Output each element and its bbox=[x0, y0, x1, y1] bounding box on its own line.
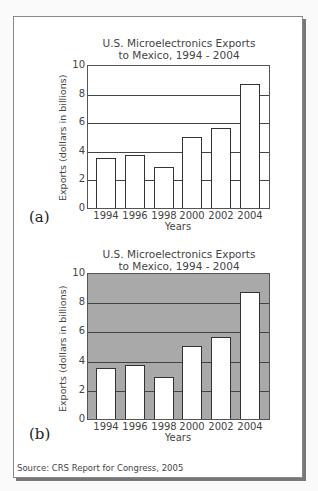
source-note: Source: CRS Report for Congress, 2005 bbox=[17, 463, 183, 473]
x-tick-label: 1996 bbox=[121, 421, 149, 432]
y-axis-label: Exports (dollars in billions) bbox=[57, 75, 68, 201]
x-tick-label: 2004 bbox=[236, 421, 264, 432]
x-tick-label: 2002 bbox=[207, 210, 235, 221]
chart-title: to Mexico, 1994 - 2004 bbox=[71, 260, 287, 272]
x-tick-label: 1998 bbox=[150, 210, 178, 221]
x-tick-label: 1998 bbox=[150, 421, 178, 432]
y-axis-label: Exports (dollars in billions) bbox=[57, 286, 68, 412]
x-tick-label: 1996 bbox=[121, 210, 149, 221]
bar-2000 bbox=[182, 346, 202, 419]
bar-1998 bbox=[154, 377, 174, 419]
figure-card: U.S. Microelectronics Exportsto Mexico, … bbox=[13, 16, 303, 478]
x-tick-label: 2002 bbox=[207, 421, 235, 432]
panel-label: (a) bbox=[29, 208, 50, 226]
x-tick-label: 2000 bbox=[178, 421, 206, 432]
bar-2004 bbox=[240, 292, 260, 419]
chart-title: to Mexico, 1994 - 2004 bbox=[71, 49, 287, 61]
x-tick-label: 2004 bbox=[236, 210, 264, 221]
panel-label: (b) bbox=[29, 425, 50, 443]
bar-2000 bbox=[182, 137, 202, 209]
y-tick-label: 10 bbox=[71, 60, 85, 70]
bar-2004 bbox=[240, 84, 260, 208]
y-tick-label: 0 bbox=[71, 414, 85, 424]
bar-1996 bbox=[125, 155, 145, 208]
y-tick-label: 10 bbox=[71, 268, 85, 278]
bar-1994 bbox=[96, 158, 116, 208]
y-tick-label: 8 bbox=[71, 297, 85, 307]
x-tick-label: 1994 bbox=[92, 421, 120, 432]
bar-1994 bbox=[96, 368, 116, 419]
y-tick-label: 2 bbox=[71, 385, 85, 395]
plot-area bbox=[87, 65, 270, 209]
chart-title: U.S. Microelectronics Exports bbox=[71, 37, 287, 49]
y-tick-label: 6 bbox=[71, 326, 85, 336]
x-axis-label: Years bbox=[148, 432, 208, 443]
bar-1998 bbox=[154, 167, 174, 208]
plot-area bbox=[87, 273, 270, 420]
bar-2002 bbox=[211, 128, 231, 208]
y-tick-label: 8 bbox=[71, 89, 85, 99]
y-tick-label: 2 bbox=[71, 174, 85, 184]
y-tick-label: 6 bbox=[71, 117, 85, 127]
bar-2002 bbox=[211, 337, 231, 419]
y-tick-label: 0 bbox=[71, 203, 85, 213]
chart-title: U.S. Microelectronics Exports bbox=[71, 248, 287, 260]
bar-1996 bbox=[125, 365, 145, 419]
y-tick-label: 4 bbox=[71, 146, 85, 156]
x-tick-label: 2000 bbox=[178, 210, 206, 221]
x-tick-label: 1994 bbox=[92, 210, 120, 221]
x-axis-label: Years bbox=[148, 221, 208, 232]
y-tick-label: 4 bbox=[71, 356, 85, 366]
